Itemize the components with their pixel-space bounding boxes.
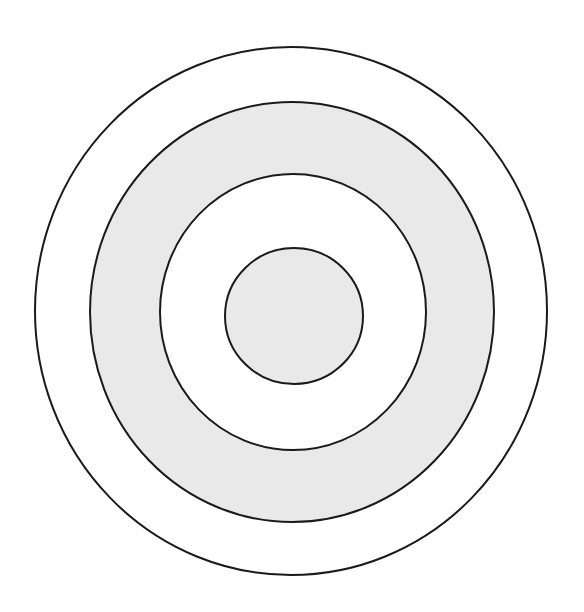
target-diagram — [0, 0, 584, 612]
inner-circle-shaded — [225, 248, 363, 384]
